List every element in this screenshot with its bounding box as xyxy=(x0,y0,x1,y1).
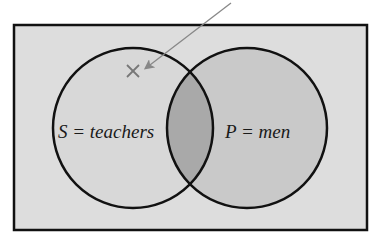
set-p-label: P = men xyxy=(224,121,290,142)
set-s-label: S = teachers xyxy=(58,121,154,142)
venn-diagram: S = teachers P = men xyxy=(0,0,376,232)
